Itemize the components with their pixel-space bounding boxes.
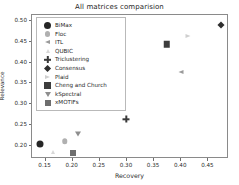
legend-item-bimax[interactable]: BiMax — [40, 21, 122, 30]
data-point-plaid — [186, 34, 191, 38]
y-tick-label: 0.25 — [15, 121, 27, 127]
legend-marker-icon — [40, 56, 55, 63]
data-point-bimax — [36, 141, 43, 148]
legend-item-floc[interactable]: Floc — [40, 30, 122, 39]
legend-item-plaid[interactable]: Plaid — [40, 73, 122, 82]
legend-item-label: Cheng and Church — [55, 81, 107, 90]
legend-marker-icon — [40, 40, 55, 44]
data-point-triclustering — [123, 116, 130, 123]
legend-item-label: xMOTIFs — [55, 98, 79, 107]
legend-item-label: ITL — [55, 38, 63, 47]
legend-item-xmotifs[interactable]: xMOTIFs — [40, 98, 122, 107]
y-tick-label: 0.50 — [15, 17, 27, 23]
y-tick-mark — [29, 41, 32, 42]
y-tick-mark — [29, 20, 32, 21]
legend-marker-icon — [40, 100, 55, 106]
x-tick-mark — [180, 158, 181, 161]
x-tick-mark — [126, 158, 127, 161]
y-tick-label: 0.35 — [15, 79, 27, 85]
legend-marker-icon — [40, 31, 55, 37]
y-tick-mark — [29, 62, 32, 63]
x-tick-label: 0.30 — [120, 162, 132, 168]
x-tick-label: 0.25 — [93, 162, 105, 168]
data-point-itl — [179, 70, 184, 74]
x-axis-label: Recovery — [31, 172, 228, 179]
x-tick-label: 0.20 — [65, 162, 77, 168]
legend-marker-icon — [40, 66, 55, 71]
legend-item-label: Plaid — [55, 73, 68, 82]
figure-canvas: All matrices comparision Relevance Recov… — [0, 0, 239, 185]
x-tick-label: 0.45 — [201, 162, 213, 168]
legend-item-label: Triclustering — [55, 55, 89, 64]
x-tick-mark — [207, 158, 208, 161]
data-point-kspectral — [75, 131, 81, 136]
chart-legend: BiMaxFlocITLQUBICTriclusteringConsensusP… — [36, 17, 126, 111]
legend-item-label: Consensus — [55, 64, 85, 73]
x-tick-label: 0.15 — [38, 162, 50, 168]
legend-marker-icon — [40, 75, 55, 79]
legend-item-cheng-and-church[interactable]: Cheng and Church — [40, 81, 122, 90]
x-tick-label: 0.35 — [147, 162, 159, 168]
legend-item-label: QUBIC — [55, 47, 73, 56]
y-tick-label: 0.30 — [15, 100, 27, 106]
legend-item-itl[interactable]: ITL — [40, 38, 122, 47]
data-point-xmotifs — [70, 150, 76, 156]
legend-item-label: kSpectral — [55, 90, 81, 99]
legend-marker-icon — [40, 49, 55, 53]
y-tick-label: 0.45 — [15, 38, 27, 44]
legend-item-kspectral[interactable]: kSpectral — [40, 90, 122, 99]
y-axis-label: Relevance — [0, 72, 5, 101]
data-point-cheng-and-church — [163, 41, 170, 48]
x-tick-mark — [72, 158, 73, 161]
y-tick-label: 0.40 — [15, 59, 27, 65]
x-tick-mark — [153, 158, 154, 161]
y-tick-mark — [29, 103, 32, 104]
legend-item-triclustering[interactable]: Triclustering — [40, 55, 122, 64]
legend-marker-icon — [40, 82, 55, 89]
x-tick-mark — [99, 158, 100, 161]
y-tick-mark — [29, 82, 32, 83]
legend-item-consensus[interactable]: Consensus — [40, 64, 122, 73]
page-title: All matrices comparision — [0, 3, 239, 11]
legend-item-label: Floc — [55, 30, 66, 39]
legend-marker-icon — [40, 92, 55, 97]
y-tick-mark — [29, 124, 32, 125]
x-tick-mark — [45, 158, 46, 161]
y-tick-mark — [29, 145, 32, 146]
y-tick-label: 0.20 — [15, 142, 27, 148]
data-point-qubic — [51, 150, 55, 154]
legend-marker-icon — [40, 22, 55, 29]
data-point-floc — [62, 138, 68, 144]
legend-item-qubic[interactable]: QUBIC — [40, 47, 122, 56]
data-point-consensus — [218, 21, 225, 28]
x-tick-label: 0.40 — [174, 162, 186, 168]
legend-item-label: BiMax — [55, 21, 72, 30]
